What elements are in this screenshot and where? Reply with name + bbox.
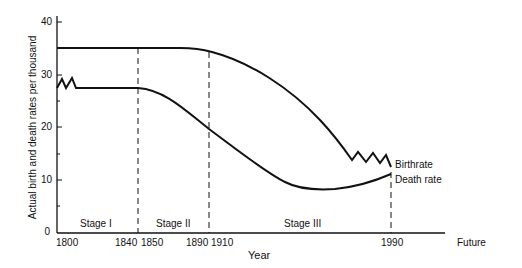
y-axis-label: Actual birth and death rates per thousan… <box>27 28 38 228</box>
chart-canvas <box>0 0 522 268</box>
y-tick-40: 40 <box>34 17 52 27</box>
x-tick-1800: 1800 <box>56 238 78 248</box>
death-rate-line <box>57 78 391 189</box>
death-rate-label: Death rate <box>395 175 442 185</box>
x-tick-future: Future <box>457 238 486 248</box>
y-ticks <box>57 22 62 206</box>
x-tick-1840: 1840 <box>115 238 137 248</box>
stage-3-label: Stage III <box>284 219 321 229</box>
stage-1-label: Stage I <box>80 219 112 229</box>
stage-2-label: Stage II <box>156 219 190 229</box>
x-tick-1910: 1910 <box>211 238 233 248</box>
y-tick-0: 0 <box>32 227 50 237</box>
birthrate-label: Birthrate <box>395 160 433 170</box>
x-tick-1850: 1850 <box>141 238 163 248</box>
birthrate-line <box>57 48 391 167</box>
x-tick-1890: 1890 <box>186 238 208 248</box>
x-axis-label: Year <box>248 250 270 261</box>
x-tick-1990: 1990 <box>381 238 403 248</box>
